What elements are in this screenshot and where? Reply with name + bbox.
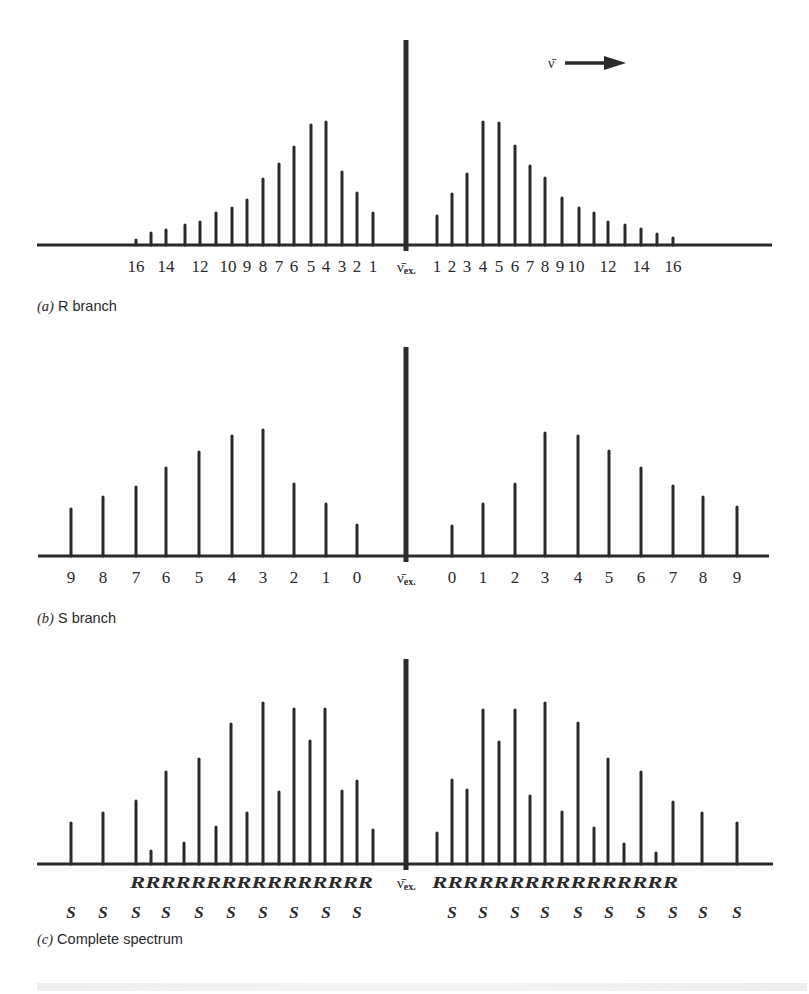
- rotational-quantum-number-label: 14: [158, 257, 176, 276]
- panel-s-branch: ν̄ex.98765432100123456789: [38, 347, 769, 587]
- center-frequency-label: ν̄ex.: [397, 875, 416, 892]
- arrow-right-icon: [604, 56, 626, 70]
- rotational-quantum-number-label: 7: [526, 257, 535, 276]
- center-frequency-label: ν̄ex.: [397, 259, 416, 276]
- s-branch-label: S: [131, 903, 140, 922]
- rotational-quantum-number-label: 6: [162, 568, 171, 587]
- center-frequency-label: ν̄ex.: [397, 570, 416, 587]
- s-branch-label: S: [668, 903, 677, 922]
- s-branch-label: S: [98, 903, 107, 922]
- rotational-quantum-number-label: 7: [275, 257, 284, 276]
- rotational-quantum-number-label: 0: [448, 568, 457, 587]
- rotational-quantum-number-label: 8: [699, 568, 708, 587]
- rotational-quantum-number-label: 6: [637, 568, 646, 587]
- caption-panel-c: (c) Complete spectrum: [37, 931, 183, 948]
- s-branch-label: S: [226, 903, 235, 922]
- rotational-quantum-number-label: 12: [600, 257, 617, 276]
- rotational-quantum-number-label: 2: [290, 568, 299, 587]
- r-branch-labels-left: RRRRRRRRRRRRRRRR: [129, 873, 373, 892]
- r-branch-labels-right: RRRRRRRRRRRRRRRR: [431, 873, 678, 892]
- s-branch-label: S: [321, 903, 330, 922]
- rotational-quantum-number-label: 1: [369, 257, 378, 276]
- rotational-quantum-number-label: 1: [479, 568, 488, 587]
- wavenumber-label: ν̄: [548, 56, 557, 71]
- caption-letter: (c): [37, 931, 53, 947]
- truncated-figure-caption: [37, 983, 807, 991]
- panel-complete-spectrum: ν̄ex.RRRRRRRRRRRRRRRRRRRRRRRRRRRRRRRRSSS…: [37, 659, 773, 922]
- rotational-quantum-number-label: 16: [665, 257, 682, 276]
- s-branch-label: S: [66, 903, 75, 922]
- rotational-quantum-number-label: 8: [259, 257, 268, 276]
- rotational-quantum-number-label: 1: [322, 568, 331, 587]
- s-branch-label: S: [573, 903, 582, 922]
- s-branch-label: S: [540, 903, 549, 922]
- rotational-quantum-number-label: 6: [511, 257, 520, 276]
- rotational-quantum-number-label: 3: [259, 568, 268, 587]
- caption-panel-a: (a) R branch: [37, 298, 117, 315]
- rotational-quantum-number-label: 5: [495, 257, 504, 276]
- rotational-quantum-number-label: 9: [733, 568, 742, 587]
- s-branch-label: S: [510, 903, 519, 922]
- s-branch-label: S: [636, 903, 645, 922]
- s-branch-label: S: [732, 903, 741, 922]
- s-branch-label: S: [289, 903, 298, 922]
- s-branch-label: S: [194, 903, 203, 922]
- s-branch-label: S: [698, 903, 707, 922]
- rotational-quantum-number-label: 3: [338, 257, 347, 276]
- rotational-quantum-number-label: 7: [132, 568, 141, 587]
- s-branch-label: S: [604, 903, 613, 922]
- caption-text: Complete spectrum: [53, 931, 183, 947]
- s-branch-label: S: [478, 903, 487, 922]
- rotational-quantum-number-label: 16: [128, 257, 145, 276]
- caption-letter: (a): [37, 298, 54, 314]
- rotational-quantum-number-label: 4: [574, 568, 583, 587]
- rotational-quantum-number-label: 5: [307, 257, 316, 276]
- wavenumber-direction-indicator: ν̄: [548, 56, 626, 71]
- rotational-quantum-number-label: 6: [290, 257, 299, 276]
- rotational-quantum-number-label: 10: [568, 257, 585, 276]
- caption-letter: (b): [37, 610, 54, 626]
- caption-text: S branch: [54, 610, 116, 626]
- rotational-quantum-number-label: 9: [556, 257, 565, 276]
- s-branch-label: S: [352, 903, 361, 922]
- rotational-quantum-number-label: 4: [479, 257, 488, 276]
- caption-text: R branch: [54, 298, 117, 314]
- spectrum-figure: ν̄ex.1614121098765432112345678910121416 …: [0, 0, 809, 994]
- rotational-quantum-number-label: 8: [99, 568, 108, 587]
- rotational-quantum-number-label: 2: [448, 257, 457, 276]
- rotational-quantum-number-label: 8: [541, 257, 550, 276]
- rotational-quantum-number-label: 3: [463, 257, 472, 276]
- s-branch-label: S: [447, 903, 456, 922]
- rotational-quantum-number-label: 9: [243, 257, 252, 276]
- rotational-quantum-number-label: 9: [67, 568, 76, 587]
- s-branch-label: S: [161, 903, 170, 922]
- rotational-quantum-number-label: 10: [220, 257, 237, 276]
- rotational-quantum-number-label: 5: [195, 568, 204, 587]
- rotational-quantum-number-label: 0: [353, 568, 362, 587]
- panel-r-branch: ν̄ex.1614121098765432112345678910121416: [37, 40, 772, 276]
- rotational-quantum-number-label: 3: [541, 568, 550, 587]
- caption-panel-b: (b) S branch: [37, 610, 116, 627]
- s-branch-label: S: [258, 903, 267, 922]
- rotational-quantum-number-label: 1: [433, 257, 442, 276]
- rotational-quantum-number-label: 14: [633, 257, 651, 276]
- rotational-quantum-number-label: 2: [511, 568, 520, 587]
- rotational-quantum-number-label: 7: [669, 568, 678, 587]
- rotational-quantum-number-label: 4: [228, 568, 237, 587]
- rotational-quantum-number-label: 5: [605, 568, 614, 587]
- rotational-quantum-number-label: 12: [192, 257, 209, 276]
- rotational-quantum-number-label: 2: [353, 257, 362, 276]
- rotational-quantum-number-label: 4: [322, 257, 331, 276]
